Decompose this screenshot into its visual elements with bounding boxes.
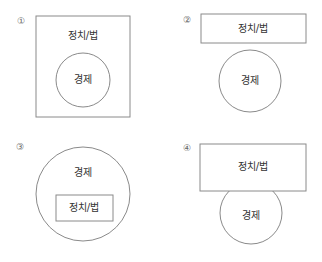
economy-label: 경제 <box>242 209 260 221</box>
option-number-2: ② <box>183 15 191 25</box>
politics-law-label: 정치/법 <box>238 161 268 172</box>
economy-label: 경제 <box>74 73 92 85</box>
option-number-3: ③ <box>16 142 24 152</box>
politics-law-label: 정치/법 <box>238 23 268 34</box>
option-3: ③ 경제 정치/법 <box>16 142 130 242</box>
economy-label: 경제 <box>241 74 259 86</box>
option-number-4: ④ <box>183 143 191 153</box>
economy-label: 경제 <box>74 166 92 178</box>
option-1: ① 정치/법 경제 <box>17 16 130 118</box>
economy-circle <box>36 147 130 241</box>
option-4: ④ 정치/법 경제 <box>183 143 306 245</box>
option-number-1: ① <box>17 16 25 26</box>
diagram-canvas: ① 정치/법 경제 ② 정치/법 경제 ③ 경제 정치/법 ④ 정치/법 경제 <box>0 0 322 262</box>
politics-law-label: 정치/법 <box>69 202 99 213</box>
option-2: ② 정치/법 경제 <box>183 14 306 112</box>
politics-law-label: 정치/법 <box>68 30 98 41</box>
